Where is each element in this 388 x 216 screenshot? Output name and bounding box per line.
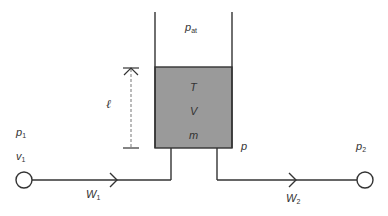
atmospheric-pressure-label: pat [185,22,197,34]
outlet-flow-label: W2 [286,193,300,205]
inlet-node-icon [16,172,32,188]
outlet-pressure-label: p2 [356,141,366,153]
volume-label: V [190,106,197,117]
inlet-flow-label: W1 [86,189,100,201]
inlet-pressure-label: p1 [16,127,26,139]
outlet-node-icon [357,172,373,188]
tank-pressure-label: p [241,141,247,152]
mass-label: m [189,130,198,141]
tank-diagram: pat T V m ℓ p p1 v1 p2 W1 W2 [0,0,388,216]
temperature-label: T [190,82,197,93]
level-label: ℓ [106,98,111,110]
inlet-velocity-label: v1 [16,151,25,163]
